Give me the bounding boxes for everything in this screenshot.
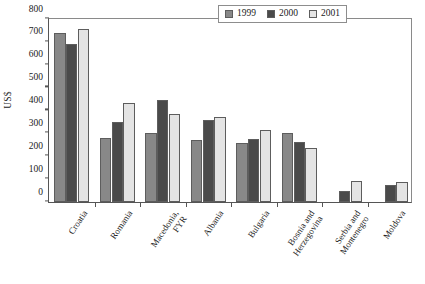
legend-swatch-1999 bbox=[225, 10, 233, 18]
x-tick-mark bbox=[95, 202, 96, 207]
y-tick-label: 0 bbox=[38, 188, 49, 198]
y-tick-label: 200 bbox=[29, 142, 49, 152]
bar-1999 bbox=[191, 140, 202, 202]
x-axis-label: Moldova bbox=[382, 209, 408, 241]
bar-2001 bbox=[396, 182, 407, 202]
bar-2000 bbox=[294, 142, 305, 202]
y-tick-label: 400 bbox=[29, 96, 49, 106]
bar-2001 bbox=[305, 148, 316, 202]
bar-2000 bbox=[248, 139, 259, 202]
y-tick-label: 600 bbox=[29, 51, 49, 61]
y-tick-label: 500 bbox=[29, 73, 49, 83]
bar-group bbox=[322, 19, 368, 202]
bar-2001 bbox=[260, 130, 271, 202]
x-tick-mark bbox=[140, 202, 141, 207]
legend-label: 2001 bbox=[321, 9, 340, 19]
bar-group bbox=[368, 19, 414, 202]
bar-2001 bbox=[214, 117, 225, 202]
bar-group bbox=[49, 19, 95, 202]
bar-2001 bbox=[123, 103, 134, 202]
bar-2000 bbox=[385, 185, 396, 202]
plot-area: 0100200300400500600700800 CroatiaRomania… bbox=[48, 18, 412, 203]
x-axis-label: Serbia andMontenegro bbox=[330, 209, 371, 256]
bar-1999 bbox=[236, 143, 247, 202]
bar-chart: US$ 0100200300400500600700800 CroatiaRom… bbox=[0, 0, 425, 284]
bar-1999 bbox=[100, 138, 111, 202]
bar-groups bbox=[49, 19, 411, 202]
x-tick-mark bbox=[186, 202, 187, 207]
bar-2000 bbox=[112, 122, 123, 202]
bar-2001 bbox=[351, 181, 362, 202]
x-axis-label: Albania bbox=[202, 209, 226, 238]
chart-legend: 199920002001 bbox=[218, 5, 347, 23]
x-axis-label: Bulgaria bbox=[246, 209, 271, 240]
x-tick-mark bbox=[231, 202, 232, 207]
x-axis-label: Macedonia,FYR bbox=[149, 209, 189, 255]
bar-2000 bbox=[339, 191, 350, 202]
y-tick-label: 700 bbox=[29, 28, 49, 38]
bar-1999 bbox=[282, 133, 293, 202]
x-axis-label: Romania bbox=[109, 209, 135, 241]
legend-item-1999: 1999 bbox=[225, 9, 256, 19]
bar-1999 bbox=[54, 33, 65, 202]
bar-2001 bbox=[169, 114, 180, 202]
bar-group bbox=[231, 19, 277, 202]
y-tick-label: 300 bbox=[29, 119, 49, 129]
bar-group bbox=[95, 19, 141, 202]
legend-item-2000: 2000 bbox=[267, 9, 298, 19]
legend-swatch-2001 bbox=[309, 10, 317, 18]
bar-2000 bbox=[157, 100, 168, 202]
bar-2000 bbox=[66, 44, 77, 202]
x-tick-mark bbox=[368, 202, 369, 207]
x-axis-label: Bosnia andHerzegovina bbox=[284, 209, 326, 258]
bar-group bbox=[277, 19, 323, 202]
bar-1999 bbox=[145, 133, 156, 202]
bar-group bbox=[186, 19, 232, 202]
y-axis-title: US$ bbox=[3, 78, 13, 122]
legend-swatch-2000 bbox=[267, 10, 275, 18]
x-tick-mark bbox=[277, 202, 278, 207]
y-tick-label: 100 bbox=[29, 165, 49, 175]
x-tick-mark bbox=[322, 202, 323, 207]
bar-2001 bbox=[78, 29, 89, 202]
bar-2000 bbox=[203, 120, 214, 202]
legend-label: 2000 bbox=[279, 9, 298, 19]
y-tick-label: 800 bbox=[29, 5, 49, 15]
x-axis-label: Croatia bbox=[67, 209, 90, 236]
legend-item-2001: 2001 bbox=[309, 9, 340, 19]
legend-label: 1999 bbox=[237, 9, 256, 19]
bar-group bbox=[140, 19, 186, 202]
